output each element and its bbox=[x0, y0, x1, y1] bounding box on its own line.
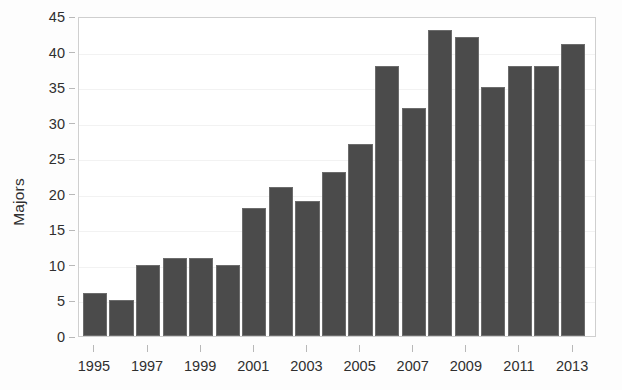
y-axis-tick-label: 35 bbox=[49, 80, 65, 96]
x-axis-tick-mark bbox=[518, 345, 519, 352]
x-axis-tick-mark bbox=[465, 345, 466, 352]
y-axis-tick-label: 25 bbox=[49, 151, 65, 167]
bar bbox=[216, 265, 240, 336]
bar bbox=[136, 265, 160, 336]
y-axis-tick-mark bbox=[69, 88, 75, 89]
bar bbox=[402, 108, 426, 336]
y-axis-tick: 0 bbox=[0, 329, 78, 345]
x-axis-tick: 1999 bbox=[170, 345, 230, 375]
y-axis-tick: 45 bbox=[0, 9, 78, 25]
bar bbox=[455, 37, 479, 336]
x-axis-tick: 2013 bbox=[542, 345, 602, 375]
y-axis-tick-mark bbox=[69, 301, 75, 302]
bar bbox=[189, 258, 213, 336]
y-axis-tick-label: 30 bbox=[49, 116, 65, 132]
x-axis-tick-mark bbox=[412, 345, 413, 352]
y-axis-tick: 5 bbox=[0, 293, 78, 309]
x-axis-tick-label: 2001 bbox=[223, 358, 283, 375]
bar bbox=[428, 30, 452, 336]
bar bbox=[322, 172, 346, 336]
y-axis-tick-label: 20 bbox=[49, 187, 65, 203]
bar bbox=[242, 208, 266, 336]
x-axis-tick: 2001 bbox=[223, 345, 283, 375]
x-axis-tick-label: 2009 bbox=[436, 358, 496, 375]
x-axis-tick: 1997 bbox=[117, 345, 177, 375]
y-axis-tick-label: 40 bbox=[49, 45, 65, 61]
x-axis-tick-mark bbox=[359, 345, 360, 352]
x-axis-tick-label: 1997 bbox=[117, 358, 177, 375]
bar bbox=[109, 300, 133, 336]
x-axis-tick-mark bbox=[306, 345, 307, 352]
x-axis-tick-mark bbox=[572, 345, 573, 352]
x-axis-tick: 2009 bbox=[436, 345, 496, 375]
y-axis-tick-label: 10 bbox=[49, 258, 65, 274]
y-axis-tick-mark bbox=[69, 230, 75, 231]
x-axis-tick-label: 2003 bbox=[276, 358, 336, 375]
bar bbox=[348, 144, 372, 336]
bar-chart: Majors 051015202530354045 19951997199920… bbox=[0, 0, 622, 390]
y-axis-tick-mark bbox=[69, 123, 75, 124]
x-axis-tick-label: 1999 bbox=[170, 358, 230, 375]
x-axis-tick: 2011 bbox=[489, 345, 549, 375]
y-axis-tick: 20 bbox=[0, 187, 78, 203]
bars-group bbox=[79, 18, 595, 336]
x-axis-tick: 2003 bbox=[276, 345, 336, 375]
bar bbox=[269, 187, 293, 336]
plot-area bbox=[78, 17, 596, 337]
y-axis-tick-mark bbox=[69, 194, 75, 195]
bar bbox=[534, 66, 558, 336]
y-axis-tick-mark bbox=[69, 17, 75, 18]
bar bbox=[163, 258, 187, 336]
x-axis-tick-label: 2013 bbox=[542, 358, 602, 375]
y-axis-tick-label: 0 bbox=[57, 329, 65, 345]
y-axis-tick-label: 15 bbox=[49, 222, 65, 238]
x-axis-tick-mark bbox=[147, 345, 148, 352]
bar bbox=[375, 66, 399, 336]
x-axis-tick-mark bbox=[93, 345, 94, 352]
x-axis-tick-label: 2011 bbox=[489, 358, 549, 375]
bar bbox=[561, 44, 585, 336]
bar bbox=[481, 87, 505, 336]
y-axis-tick-mark bbox=[69, 159, 75, 160]
x-axis-tick: 2007 bbox=[383, 345, 443, 375]
x-axis-tick: 2005 bbox=[330, 345, 390, 375]
y-axis-tick: 35 bbox=[0, 80, 78, 96]
bar bbox=[295, 201, 319, 336]
x-axis-tick-mark bbox=[200, 345, 201, 352]
y-axis-tick: 25 bbox=[0, 151, 78, 167]
x-axis-tick-label: 2007 bbox=[383, 358, 443, 375]
x-axis-tick-label: 1995 bbox=[64, 358, 124, 375]
y-axis-tick: 10 bbox=[0, 258, 78, 274]
y-axis-tick-mark bbox=[69, 337, 75, 338]
y-axis-tick-mark bbox=[69, 52, 75, 53]
y-axis-tick: 15 bbox=[0, 222, 78, 238]
bar bbox=[83, 293, 107, 336]
y-axis-tick-label: 5 bbox=[57, 293, 65, 309]
y-axis-tick: 40 bbox=[0, 45, 78, 61]
bar bbox=[508, 66, 532, 336]
x-axis-tick: 1995 bbox=[64, 345, 124, 375]
y-axis-tick-mark bbox=[69, 265, 75, 266]
y-axis-tick: 30 bbox=[0, 116, 78, 132]
x-axis-tick-label: 2005 bbox=[330, 358, 390, 375]
y-axis-tick-label: 45 bbox=[49, 9, 65, 25]
x-axis-tick-mark bbox=[253, 345, 254, 352]
